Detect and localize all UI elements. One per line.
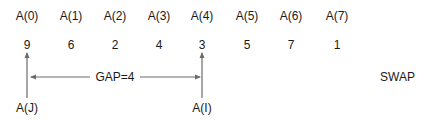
j-pointer-label: A(J) xyxy=(16,101,38,115)
gap-label: GAP=4 xyxy=(92,70,137,84)
pointer-arrows xyxy=(0,0,432,120)
shell-sort-gap-diagram: A(0) A(1) A(2) A(3) A(4) A(5) A(6) A(7) … xyxy=(0,0,432,120)
i-pointer-label: A(I) xyxy=(192,101,211,115)
swap-label: SWAP xyxy=(380,70,415,84)
